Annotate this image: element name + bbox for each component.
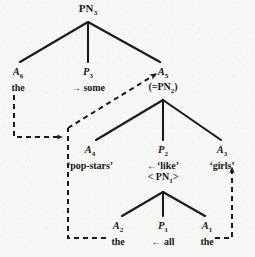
node-a4-gloss: ‘pop-stars’ [67, 160, 113, 171]
tree-edges-layer [0, 0, 255, 257]
edge-pn3-a6 [20, 22, 88, 62]
node-a1-gloss: the [200, 236, 213, 247]
node-a4-label: A4 [67, 144, 113, 159]
node-p1-gloss: ← all [152, 236, 175, 247]
node-p2[interactable]: P2 ←‘like’ < PN1> [147, 144, 179, 186]
node-p2-label: P2 [147, 144, 179, 159]
dashed-link-a6-a4 [14, 95, 62, 137]
node-a1-label: A1 [200, 220, 213, 235]
tree-diagram-figure: PN3 A6 the P3 → some A5 (=PN2) A4 ‘pop-s… [0, 0, 255, 257]
rightward-arrow-icon: → [71, 82, 81, 93]
node-a5[interactable]: A5 (=PN2) [148, 66, 177, 96]
leftward-arrow-icon: ← [152, 236, 162, 247]
solid-edge-group [20, 22, 221, 216]
edge-pn3-a5 [88, 22, 160, 62]
edge-pn1-a2 [122, 192, 163, 216]
node-a3-gloss: ‘girls’ [209, 160, 234, 171]
edge-pn1-a1 [163, 192, 205, 216]
node-a6-gloss: the [11, 82, 24, 93]
leftward-arrow-icon: ← [147, 160, 157, 171]
node-p3-gloss: → some [71, 82, 105, 93]
node-p3-label: P3 [71, 66, 105, 81]
node-a5-coindex: (=PN2) [148, 81, 177, 96]
node-p1[interactable]: P1 ← all [152, 220, 175, 247]
dashed-link-a1-a3 [215, 168, 232, 238]
node-p2-gloss: ←‘like’ [147, 160, 179, 171]
node-a4[interactable]: A4 ‘pop-stars’ [67, 144, 113, 171]
node-p1-label: P1 [152, 220, 175, 235]
node-p3[interactable]: P3 → some [71, 66, 105, 93]
node-a6[interactable]: A6 the [11, 66, 24, 93]
edge-a5-a3 [163, 100, 221, 140]
node-a2-label: A2 [111, 220, 124, 235]
edge-a5-a4 [96, 100, 163, 140]
node-a2[interactable]: A2 the [111, 220, 124, 247]
node-a3[interactable]: A3 ‘girls’ [209, 144, 234, 171]
node-a6-label: A6 [11, 66, 24, 81]
node-pn3[interactable]: PN3 [79, 2, 97, 18]
node-a1[interactable]: A1 the [200, 220, 213, 247]
node-pn3-label: PN3 [79, 2, 97, 18]
node-p2-pn1-bracket: < PN1> [147, 171, 179, 186]
node-a5-label: A5 [148, 66, 177, 81]
node-a2-gloss: the [111, 236, 124, 247]
node-a3-label: A3 [209, 144, 234, 159]
